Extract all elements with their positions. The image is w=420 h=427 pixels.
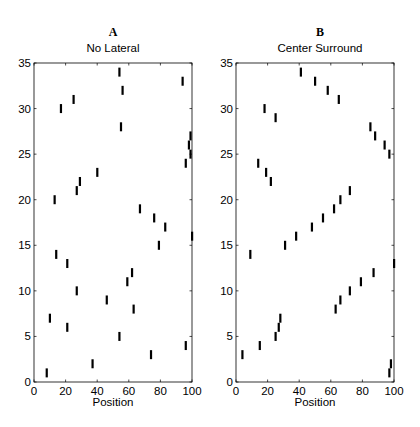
data-point <box>189 131 191 140</box>
data-point <box>121 86 123 95</box>
y-tick-label: 5 <box>227 330 233 342</box>
y-tick-label: 25 <box>220 148 233 160</box>
data-point <box>66 259 68 268</box>
data-point <box>279 314 281 323</box>
y-tick-label: 15 <box>220 239 233 251</box>
y-tick-label: 10 <box>18 285 31 297</box>
y-tick-label: 20 <box>220 194 233 206</box>
data-point <box>314 77 316 86</box>
data-point <box>150 350 152 359</box>
y-tick-label: 25 <box>18 148 31 160</box>
y-tick-label: 0 <box>227 376 233 388</box>
x-tick-label: 80 <box>356 385 369 397</box>
panel-b: B Center Surround 0204060801000510152025… <box>210 0 420 427</box>
data-point <box>338 95 340 104</box>
data-point <box>191 232 193 241</box>
data-point <box>270 177 272 186</box>
data-point <box>158 241 160 250</box>
y-tick-label: 20 <box>18 194 31 206</box>
data-point <box>126 277 128 286</box>
data-point <box>311 223 313 232</box>
data-point <box>284 241 286 250</box>
data-point <box>185 159 187 168</box>
data-point <box>185 341 187 350</box>
data-point <box>188 141 190 150</box>
data-point <box>153 213 155 222</box>
data-point <box>259 341 261 350</box>
data-point <box>339 295 341 304</box>
data-point <box>390 359 392 368</box>
plot-a: 02040608010005101520253035Position <box>0 0 210 427</box>
data-point <box>388 368 390 377</box>
data-point <box>106 295 108 304</box>
x-tick-label: 20 <box>261 385 274 397</box>
data-point <box>60 104 62 113</box>
y-tick-label: 35 <box>220 57 233 69</box>
data-point <box>278 323 280 332</box>
data-point <box>249 250 251 259</box>
x-tick-label: 100 <box>182 385 201 397</box>
data-point <box>360 277 362 286</box>
data-point <box>335 305 337 314</box>
x-tick-label: 100 <box>384 385 403 397</box>
data-point <box>333 204 335 213</box>
x-tick-label: 80 <box>154 385 167 397</box>
data-point <box>374 131 376 140</box>
data-point <box>139 204 141 213</box>
data-point <box>300 68 302 77</box>
plot-b: 02040608010005101520253035Position <box>210 0 420 427</box>
data-point <box>54 195 56 204</box>
data-point <box>79 177 81 186</box>
data-point <box>133 305 135 314</box>
panel-a: A No Lateral 02040608010005101520253035P… <box>0 0 210 427</box>
data-point <box>55 250 57 259</box>
data-point <box>76 186 78 195</box>
x-axis-label: Position <box>93 396 134 408</box>
data-point <box>241 350 243 359</box>
data-point <box>327 86 329 95</box>
data-point <box>46 368 48 377</box>
x-tick-label: 0 <box>31 385 37 397</box>
data-point <box>384 141 386 150</box>
data-point <box>388 150 390 159</box>
data-point <box>182 77 184 86</box>
x-tick-label: 0 <box>233 385 239 397</box>
axes-box <box>34 63 192 382</box>
x-tick-label: 20 <box>59 385 72 397</box>
x-axis-label: Position <box>295 396 336 408</box>
y-tick-label: 10 <box>220 285 233 297</box>
data-point <box>73 95 75 104</box>
data-point <box>49 314 51 323</box>
data-point <box>322 213 324 222</box>
data-point <box>131 268 133 277</box>
data-point <box>339 195 341 204</box>
data-point <box>66 323 68 332</box>
y-tick-label: 35 <box>18 57 31 69</box>
data-point <box>372 268 374 277</box>
data-point <box>369 122 371 131</box>
data-point <box>257 159 259 168</box>
data-point <box>349 286 351 295</box>
y-tick-label: 0 <box>25 376 31 388</box>
y-tick-label: 30 <box>220 103 233 115</box>
y-tick-label: 15 <box>18 239 31 251</box>
data-point <box>118 68 120 77</box>
data-point <box>96 168 98 177</box>
data-point <box>393 259 395 268</box>
data-point <box>349 186 351 195</box>
data-point <box>265 168 267 177</box>
data-point <box>275 113 277 122</box>
data-point <box>76 286 78 295</box>
y-tick-label: 30 <box>18 103 31 115</box>
data-point <box>164 223 166 232</box>
y-tick-label: 5 <box>25 330 31 342</box>
data-point <box>275 332 277 341</box>
data-point <box>295 232 297 241</box>
data-point <box>189 150 191 159</box>
data-point <box>91 359 93 368</box>
data-point <box>263 104 265 113</box>
data-point <box>120 122 122 131</box>
axes-box <box>236 63 394 382</box>
data-point <box>118 332 120 341</box>
